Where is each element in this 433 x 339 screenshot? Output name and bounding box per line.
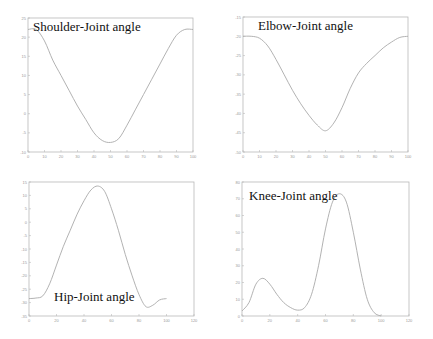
svg-text:-10: -10 — [20, 150, 27, 155]
svg-text:120: 120 — [406, 318, 413, 323]
svg-text:20: 20 — [54, 318, 59, 323]
svg-text:10: 10 — [22, 73, 27, 78]
svg-text:120: 120 — [191, 318, 198, 323]
svg-text:-45: -45 — [235, 130, 242, 135]
svg-text:0: 0 — [241, 318, 244, 323]
svg-text:40: 40 — [82, 318, 87, 323]
data-curve — [242, 194, 381, 316]
svg-text:80: 80 — [236, 180, 241, 185]
svg-text:0: 0 — [27, 154, 30, 159]
svg-text:15: 15 — [22, 54, 27, 59]
svg-text:-5: -5 — [23, 233, 27, 238]
svg-text:30: 30 — [236, 263, 241, 268]
svg-text:70: 70 — [236, 196, 241, 201]
svg-text:20: 20 — [22, 35, 27, 40]
svg-text:80: 80 — [351, 318, 356, 323]
svg-text:-35: -35 — [21, 314, 28, 319]
svg-text:0: 0 — [242, 154, 245, 159]
svg-text:50: 50 — [236, 230, 241, 235]
shoulder-chart: 01020304050607080901002520151050-5-10 Sh… — [20, 16, 197, 160]
data-curve — [28, 29, 193, 143]
svg-text:10: 10 — [257, 154, 262, 159]
svg-text:-5: -5 — [22, 130, 26, 135]
svg-text:40: 40 — [236, 247, 241, 252]
hip-chart: 020406080100120151050-5-10-15-20-25-30-3… — [21, 180, 198, 324]
axis-ticks: 0102030405060708090100-15-20-25-30-35-40… — [235, 15, 412, 160]
svg-text:10: 10 — [42, 154, 47, 159]
svg-text:5: 5 — [24, 92, 27, 97]
svg-text:70: 70 — [141, 154, 146, 159]
svg-text:-30: -30 — [235, 72, 242, 77]
svg-text:10: 10 — [236, 297, 241, 302]
svg-text:80: 80 — [373, 154, 378, 159]
svg-text:-25: -25 — [235, 53, 242, 58]
svg-text:90: 90 — [389, 154, 394, 159]
knee-chart: 02040608010012080706050403020100 Knee-Jo… — [236, 180, 414, 324]
svg-text:80: 80 — [158, 154, 163, 159]
svg-text:80: 80 — [137, 318, 142, 323]
svg-text:-40: -40 — [235, 111, 242, 116]
chart-title: Knee-Joint angle — [249, 188, 338, 203]
svg-text:60: 60 — [125, 154, 130, 159]
svg-text:20: 20 — [268, 318, 273, 323]
chart-title: Elbow-Joint angle — [258, 18, 353, 33]
svg-text:20: 20 — [274, 154, 279, 159]
data-curve — [243, 36, 408, 131]
svg-text:40: 40 — [295, 318, 300, 323]
svg-text:30: 30 — [290, 154, 295, 159]
svg-text:60: 60 — [109, 318, 114, 323]
plot-frame — [243, 17, 408, 152]
svg-text:100: 100 — [163, 318, 170, 323]
svg-text:-10: -10 — [21, 247, 28, 252]
svg-text:100: 100 — [378, 318, 385, 323]
svg-text:-50: -50 — [235, 150, 242, 155]
svg-text:25: 25 — [22, 16, 27, 21]
svg-text:20: 20 — [236, 280, 241, 285]
svg-text:-25: -25 — [21, 287, 28, 292]
chart-title: Hip-Joint angle — [54, 289, 135, 304]
svg-text:-15: -15 — [235, 15, 242, 20]
svg-text:0: 0 — [24, 111, 27, 116]
svg-text:60: 60 — [323, 318, 328, 323]
svg-text:60: 60 — [340, 154, 345, 159]
svg-text:40: 40 — [307, 154, 312, 159]
svg-text:40: 40 — [92, 154, 97, 159]
svg-text:90: 90 — [174, 154, 179, 159]
svg-text:70: 70 — [356, 154, 361, 159]
svg-text:50: 50 — [108, 154, 113, 159]
svg-text:10: 10 — [23, 193, 28, 198]
svg-text:-20: -20 — [235, 34, 242, 39]
svg-text:60: 60 — [236, 213, 241, 218]
elbow-chart: 0102030405060708090100-15-20-25-30-35-40… — [235, 15, 412, 160]
svg-text:50: 50 — [323, 154, 328, 159]
svg-text:20: 20 — [59, 154, 64, 159]
axis-ticks: 01020304050607080901002520151050-5-10 — [20, 16, 197, 160]
svg-text:0: 0 — [28, 318, 31, 323]
svg-text:-35: -35 — [235, 92, 242, 97]
svg-text:100: 100 — [405, 154, 412, 159]
svg-text:30: 30 — [75, 154, 80, 159]
svg-text:-30: -30 — [21, 300, 28, 305]
plot-frame — [28, 18, 193, 152]
svg-text:-20: -20 — [21, 273, 28, 278]
joint-angle-charts: 01020304050607080901002520151050-5-10 Sh… — [0, 0, 433, 339]
svg-text:15: 15 — [23, 180, 28, 185]
svg-text:100: 100 — [190, 154, 197, 159]
svg-text:0: 0 — [25, 220, 28, 225]
svg-text:5: 5 — [25, 206, 28, 211]
chart-title: Shoulder-Joint angle — [33, 19, 141, 34]
svg-text:-15: -15 — [21, 260, 28, 265]
